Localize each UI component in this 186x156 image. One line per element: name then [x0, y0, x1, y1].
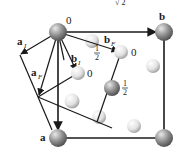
svg-text:b: b	[104, 33, 110, 45]
vector-aI-label: a I	[17, 35, 27, 50]
header-fragment: √ 2	[115, 0, 125, 7]
svg-text:I: I	[23, 42, 27, 50]
atom-sphere	[65, 94, 80, 109]
atom-sphere-bF	[114, 45, 128, 59]
atom-sphere-bI	[71, 66, 85, 80]
svg-text:a: a	[31, 66, 37, 78]
half-label-top: 1 2	[94, 44, 100, 62]
origin-height-label: 0	[66, 14, 72, 26]
svg-text:a: a	[17, 35, 23, 47]
svg-text:b: b	[71, 52, 77, 64]
atom-sphere-half	[104, 80, 120, 96]
vector-b-label: b	[159, 10, 165, 22]
svg-text:2: 2	[123, 88, 127, 97]
vector-a-label: a	[40, 131, 46, 143]
vector-aF-label: a F	[31, 66, 43, 81]
svg-text:I: I	[77, 59, 81, 67]
svg-text:1: 1	[123, 79, 127, 88]
vector-bI-label: b I	[71, 52, 81, 67]
atom-sphere-b	[155, 23, 173, 41]
svg-text:1: 1	[95, 44, 99, 53]
svg-text:2: 2	[95, 53, 99, 62]
unit-cell-diagram: √ 2 0 b a a I a F b I b F 0	[0, 0, 186, 156]
atom-sphere-a	[49, 129, 67, 147]
atom-sphere-origin	[49, 23, 67, 41]
bF-height-label: 0	[131, 46, 137, 58]
half-label-mid: 1 2	[122, 79, 128, 97]
svg-text:F: F	[37, 73, 43, 81]
atom-sphere	[146, 59, 160, 73]
atom-sphere-corner	[155, 129, 173, 147]
svg-text:F: F	[110, 40, 116, 48]
vector-bF-label: b F	[104, 33, 116, 48]
bI-height-label: 0	[87, 67, 93, 79]
atom-sphere	[127, 119, 141, 133]
